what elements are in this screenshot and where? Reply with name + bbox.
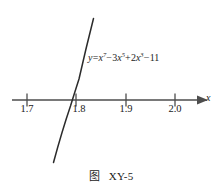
equation-constant: 11: [150, 52, 160, 63]
equation-annotation: y=x7−3x5+2x3−11: [88, 53, 159, 63]
caption-prefix: 图: [89, 170, 100, 182]
tick-label-1.8: 1.8: [64, 104, 94, 115]
polynomial-curve: [54, 19, 94, 163]
figure-caption: 图XY-5: [0, 170, 222, 183]
plot-svg: [0, 0, 222, 170]
tick-label-1.7: 1.7: [12, 104, 42, 115]
figure-xy-5: y=x7−3x5+2x3−11 1.7 1.8 1.9 2.0 x 图XY-5: [0, 0, 222, 196]
plot-area: y=x7−3x5+2x3−11 1.7 1.8 1.9 2.0 x: [0, 0, 222, 170]
tick-label-2.0: 2.0: [160, 104, 190, 115]
x-axis-label: x: [206, 93, 210, 103]
tick-label-1.9: 1.9: [111, 104, 141, 115]
caption-identifier: XY-5: [109, 170, 134, 182]
